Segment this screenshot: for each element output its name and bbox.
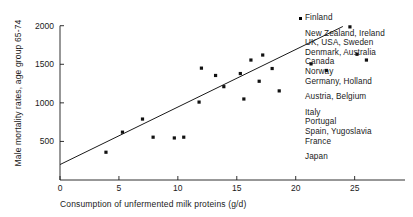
- data-point: [242, 97, 245, 100]
- x-tick-label: 10: [166, 183, 190, 193]
- x-tick-label: 0: [48, 183, 72, 193]
- x-tick-label: 15: [225, 183, 249, 193]
- data-point: [121, 131, 124, 134]
- x-tick-label: 5: [107, 183, 131, 193]
- data-point: [261, 53, 264, 56]
- data-point: [271, 67, 274, 70]
- data-point: [182, 136, 185, 139]
- x-axis-ticks: [60, 176, 355, 180]
- data-point: [222, 85, 225, 88]
- annotation-group: Germany, Holland: [305, 77, 413, 87]
- data-point: [141, 117, 144, 120]
- country-annotation-list: FinlandNew Zealand, IrelandUK, USA, Swed…: [305, 13, 413, 168]
- annotation-label: Germany, Holland: [305, 77, 413, 87]
- y-tick-label: 2000: [24, 21, 54, 31]
- x-axis-title: Consumption of unfermented milk proteins…: [60, 199, 246, 209]
- y-axis-title: Male mortality rates, age group 65-74: [13, 8, 23, 178]
- data-point: [152, 136, 155, 139]
- data-point: [214, 74, 217, 77]
- data-point: [104, 151, 107, 154]
- annotation-group: Finland: [305, 13, 413, 23]
- annotation-label: France: [305, 137, 413, 147]
- y-tick-label: 1000: [24, 98, 54, 108]
- annotation-label: Italy: [305, 108, 413, 118]
- annotation-label: Austria, Belgium: [305, 92, 413, 102]
- annotation-group: ItalyPortugalSpain, YugoslaviaFrance: [305, 108, 413, 146]
- scatter-plot-figure: 0510152025 500100015002000 Consumption o…: [0, 0, 413, 217]
- annotation-label: Spain, Yugoslavia: [305, 127, 413, 137]
- annotation-label: Canada: [305, 57, 413, 67]
- data-point: [249, 58, 252, 61]
- annotation-group: Japan: [305, 152, 413, 162]
- data-point: [200, 67, 203, 70]
- annotation-group: New Zealand, IrelandUK, USA, SwedenDenma…: [305, 29, 413, 77]
- annotation-group: Austria, Belgium: [305, 92, 413, 102]
- y-tick-label: 500: [24, 136, 54, 146]
- regression-trendline: [60, 26, 343, 164]
- annotation-label: Japan: [305, 152, 413, 162]
- annotation-label: New Zealand, Ireland: [305, 29, 413, 39]
- data-point: [258, 80, 261, 83]
- annotation-label: Portugal: [305, 117, 413, 127]
- data-point: [173, 136, 176, 139]
- data-point: [278, 89, 281, 92]
- annotation-label: Denmark, Australia: [305, 48, 413, 58]
- annotation-label: UK, USA, Sweden: [305, 38, 413, 48]
- annotation-label: Norway: [305, 67, 413, 77]
- x-tick-label: 20: [284, 183, 308, 193]
- data-point: [239, 72, 242, 75]
- y-tick-label: 1500: [24, 59, 54, 69]
- x-tick-label: 25: [343, 183, 367, 193]
- y-axis-ticks: [60, 26, 64, 142]
- data-point: [197, 100, 200, 103]
- finland-legend-marker: [299, 17, 302, 20]
- annotation-label: Finland: [305, 13, 413, 23]
